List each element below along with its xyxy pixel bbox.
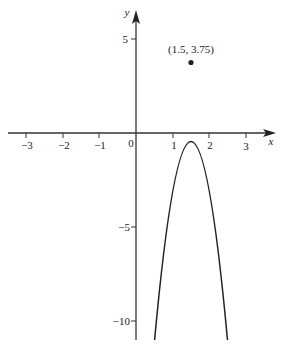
y-axis-label: y	[124, 6, 130, 18]
origin-label: 0	[128, 137, 134, 149]
x-tick-label: −1	[94, 139, 106, 151]
x-tick-label: −3	[21, 139, 33, 151]
y-ticks	[131, 39, 136, 321]
x-tick-label: 1	[171, 139, 177, 151]
x-axis-label: x	[268, 135, 274, 147]
parabola-curve	[155, 142, 228, 341]
chart-canvas: −3 −2 −1 0 1 2 3 5 −5 −10 x y (1.5, 3.75…	[0, 0, 286, 344]
x-tick-label: 2	[207, 139, 213, 151]
x-tick-label: 3	[243, 140, 249, 152]
y-tick-label: 5	[123, 33, 129, 45]
y-tick-label: −10	[113, 315, 131, 327]
y-tick-label: −5	[118, 221, 130, 233]
x-tick-label: −2	[58, 139, 70, 151]
vertex-point	[188, 60, 193, 65]
vertex-label: (1.5, 3.75)	[168, 43, 214, 56]
